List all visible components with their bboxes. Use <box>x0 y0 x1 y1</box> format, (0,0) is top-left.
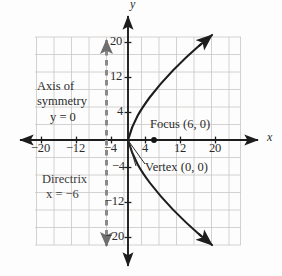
y-tick-label--20: −20 <box>105 230 124 243</box>
coordinate-plane-svg <box>0 0 282 276</box>
x-axis-label: x <box>267 131 272 144</box>
x-tick-label-4: 4 <box>142 142 148 155</box>
x-tick-label--12: −12 <box>66 142 85 155</box>
x-tick-label-20: 20 <box>209 142 221 155</box>
vertex-annotation: Vertex (0, 0) <box>145 161 208 174</box>
y-tick-label--4: −4 <box>112 160 125 173</box>
x-tick-label-12: 12 <box>174 142 186 155</box>
y-tick-label-4: 4 <box>117 105 123 118</box>
axis-of-symmetry-line-2: symmetry <box>37 94 87 109</box>
axis-of-symmetry-line-1: Axis of <box>37 79 87 94</box>
parabola-graph-figure: −20 −12 −4 4 12 20 20 12 4 −4 −12 −20 x … <box>0 0 282 276</box>
directrix-annotation: Directrix x = −6 <box>42 172 87 203</box>
x-tick-label--20: −20 <box>31 142 50 155</box>
focus-point-marker <box>151 137 157 143</box>
directrix-equation: x = −6 <box>42 187 87 202</box>
y-tick-label--12: −12 <box>105 195 124 208</box>
y-tick-label-12: 12 <box>110 70 122 83</box>
y-axis-label: y <box>130 0 135 11</box>
axis-of-symmetry-annotation: Axis of symmetry y = 0 <box>37 79 87 125</box>
axis-of-symmetry-equation: y = 0 <box>37 110 87 125</box>
x-tick-label--4: −4 <box>104 142 117 155</box>
focus-annotation: Focus (6, 0) <box>150 118 210 131</box>
y-tick-label-20: 20 <box>110 35 122 48</box>
directrix-label: Directrix <box>42 172 87 187</box>
